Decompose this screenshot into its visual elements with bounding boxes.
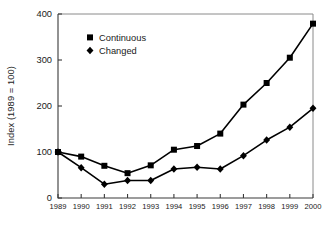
data-point-continuous-1991 (101, 163, 107, 169)
data-point-continuous-1995 (194, 143, 200, 149)
diamond-marker-icon (87, 47, 94, 55)
square-marker-icon (87, 34, 93, 40)
data-point-continuous-1992 (125, 170, 131, 176)
x-axis-tick-label: 1994 (165, 202, 182, 211)
x-axis-tick-label: 1989 (50, 202, 67, 211)
x-axis-tick-label: 1993 (142, 202, 159, 211)
y-axis-tick-label: 300 (36, 55, 52, 65)
data-point-continuous-1996 (217, 131, 223, 137)
data-point-continuous-1993 (148, 162, 154, 168)
data-point-changed-1995 (194, 163, 201, 171)
x-axis-tick-label: 1992 (119, 202, 136, 211)
data-point-continuous-1999 (287, 55, 293, 61)
y-axis-tick-label: 400 (36, 9, 52, 19)
legend-label-changed: Changed (99, 46, 137, 56)
x-axis-tick-label: 1997 (235, 202, 252, 211)
x-axis-tick-label: 1995 (189, 202, 206, 211)
x-axis-tick-label: 1999 (281, 202, 298, 211)
data-point-continuous-2000 (310, 21, 316, 27)
data-point-changed-1997 (240, 152, 247, 160)
data-point-changed-1993 (147, 177, 154, 185)
data-point-continuous-1998 (264, 80, 270, 86)
plot-axes (58, 14, 313, 198)
x-axis-tick-label: 1996 (212, 202, 229, 211)
data-point-continuous-1997 (240, 102, 246, 108)
data-point-changed-1996 (217, 165, 224, 173)
x-axis-tick-label: 1991 (96, 202, 113, 211)
legend-label-continuous: Continuous (99, 33, 146, 43)
plot-frame (58, 14, 313, 198)
data-point-changed-1998 (263, 136, 270, 144)
y-axis-tick-label: 100 (36, 147, 52, 157)
x-axis-tick-label: 2000 (305, 202, 322, 211)
x-axis-tick-label: 1990 (73, 202, 90, 211)
series-line-continuous (58, 24, 313, 174)
series-line-changed (58, 108, 313, 184)
y-axis-title: Index (1989 = 100) (6, 66, 16, 146)
data-point-continuous-1990 (78, 154, 84, 160)
chart-canvas: 0100200300400198919901991199219931994199… (0, 0, 324, 233)
line-chart: 0100200300400198919901991199219931994199… (0, 0, 324, 233)
data-point-changed-1994 (170, 165, 177, 173)
x-axis-tick-label: 1998 (258, 202, 275, 211)
data-point-continuous-1994 (171, 147, 177, 153)
data-point-changed-1992 (124, 177, 131, 185)
y-axis-tick-label: 200 (36, 101, 52, 111)
